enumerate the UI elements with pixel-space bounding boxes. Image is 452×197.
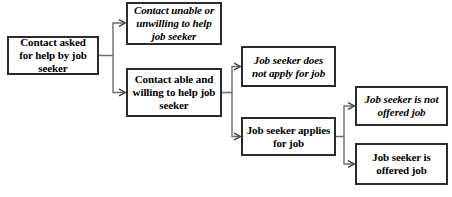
node-job-seeker-does-not-apply[interactable]: Job seeker does not apply for job <box>241 46 336 87</box>
node-contact-asked[interactable]: Contact asked for help by job seeker <box>7 36 99 75</box>
node-label: Contact able and willing to help job see… <box>131 73 217 112</box>
node-contact-able[interactable]: Contact able and willing to help job see… <box>126 68 222 117</box>
flowchart-diagram: Contact asked for help by job seeker Con… <box>0 0 452 197</box>
node-label: Contact unable or unwilling to help job … <box>131 4 217 43</box>
node-label: Job seeker applies for job <box>246 124 331 150</box>
node-label: Contact asked for help by job seeker <box>12 36 94 75</box>
node-label: Job seeker is not offered job <box>360 93 443 119</box>
node-job-seeker-offered[interactable]: Job seeker is offered job <box>355 143 448 185</box>
edge-asked-to-unable <box>99 20 125 56</box>
edge-able-to-not-apply <box>222 63 240 92</box>
node-contact-unable[interactable]: Contact unable or unwilling to help job … <box>126 2 222 45</box>
node-job-seeker-not-offered[interactable]: Job seeker is not offered job <box>355 86 448 126</box>
edge-applies-to-not-offered <box>336 103 354 137</box>
node-label: Job seeker is offered job <box>360 151 443 177</box>
node-job-seeker-applies[interactable]: Job seeker applies for job <box>241 117 336 156</box>
node-label: Job seeker does not apply for job <box>246 54 331 80</box>
edge-asked-to-able <box>113 56 125 96</box>
edge-applies-to-offered <box>344 137 354 168</box>
edge-able-to-applies <box>232 93 240 140</box>
